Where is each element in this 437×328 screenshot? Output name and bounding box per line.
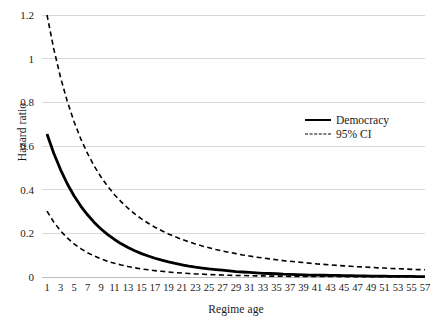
plot-area: [0, 0, 437, 328]
x-tick-label: 19: [163, 283, 174, 294]
x-tick-label: 35: [271, 283, 282, 294]
hazard-ratio-chart: 00.20.40.60.811.2 1357911131517192123252…: [0, 0, 437, 328]
x-tick-label: 5: [71, 283, 76, 294]
x-tick-label: 7: [85, 283, 90, 294]
legend-item: 95% CI: [305, 127, 389, 141]
series-line-1: [47, 134, 425, 277]
legend-label: 95% CI: [336, 127, 371, 141]
x-tick-label: 33: [258, 283, 269, 294]
x-tick-label: 3: [58, 283, 63, 294]
y-tick-label: 1: [0, 53, 40, 64]
x-axis-title: Regime age: [47, 303, 425, 315]
x-tick-label: 17: [150, 283, 161, 294]
legend-label: Democracy: [336, 113, 389, 127]
x-tick-label: 11: [109, 283, 119, 294]
x-tick-label: 53: [393, 283, 404, 294]
y-tick-label: 0.2: [0, 228, 40, 239]
x-axis-tick-labels: 1357911131517192123252729313335373941434…: [0, 283, 437, 297]
x-tick-label: 41: [312, 283, 323, 294]
y-tick-label: 0: [0, 272, 40, 283]
x-tick-label: 27: [217, 283, 228, 294]
x-tick-label: 9: [98, 283, 103, 294]
x-tick-label: 25: [204, 283, 215, 294]
x-tick-label: 55: [406, 283, 417, 294]
x-tick-label: 31: [244, 283, 255, 294]
y-axis-title: Hazard ratio: [16, 72, 28, 192]
x-tick-label: 13: [123, 283, 134, 294]
x-tick-label: 29: [231, 283, 242, 294]
gridlines: [42, 15, 425, 277]
x-tick-label: 23: [190, 283, 201, 294]
legend-solid-line-icon: [305, 114, 331, 126]
x-tick-label: 21: [177, 283, 188, 294]
legend-item: Democracy: [305, 113, 389, 127]
x-tick-label: 45: [339, 283, 350, 294]
x-tick-label: 51: [379, 283, 390, 294]
x-tick-label: 47: [352, 283, 363, 294]
x-tick-label: 37: [285, 283, 296, 294]
x-tick-label: 39: [298, 283, 309, 294]
x-tick-label: 15: [136, 283, 147, 294]
y-tick-label: 1.2: [0, 10, 40, 21]
legend-dashed-line-icon: [305, 128, 331, 140]
x-tick-label: 57: [420, 283, 431, 294]
x-tick-label: 43: [325, 283, 336, 294]
x-tick-label: 1: [44, 283, 49, 294]
x-tick-label: 49: [366, 283, 377, 294]
chart-legend: Democracy95% CI: [305, 113, 389, 141]
